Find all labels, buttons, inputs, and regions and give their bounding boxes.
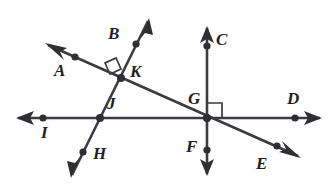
label-A: A (54, 62, 65, 79)
point-dot-J (96, 114, 104, 122)
line-AE (48, 45, 298, 156)
point-dot-F (203, 146, 210, 153)
point-dot-C (203, 42, 210, 49)
point-dot-H (79, 148, 86, 155)
label-G: G (188, 90, 200, 107)
point-dot-E (273, 142, 280, 149)
label-D: D (287, 90, 299, 107)
right-angle-marks-group (105, 58, 222, 118)
label-H: H (93, 145, 106, 162)
label-E: E (256, 155, 267, 172)
label-F: F (186, 138, 197, 155)
lines-group (18, 21, 320, 175)
point-dot-I (39, 114, 46, 121)
label-J: J (107, 95, 116, 112)
point-dot-B (132, 40, 139, 47)
label-I: I (41, 124, 48, 141)
point-dot-A (71, 53, 78, 60)
geometry-canvas (0, 0, 336, 191)
geometry-diagram: A B C D E F G H I J K (0, 0, 336, 191)
label-B: B (108, 25, 119, 42)
point-dot-G (203, 114, 211, 122)
label-C: C (216, 31, 227, 48)
point-dot-D (291, 114, 298, 121)
point-dot-K (117, 74, 125, 82)
label-K: K (130, 63, 141, 80)
